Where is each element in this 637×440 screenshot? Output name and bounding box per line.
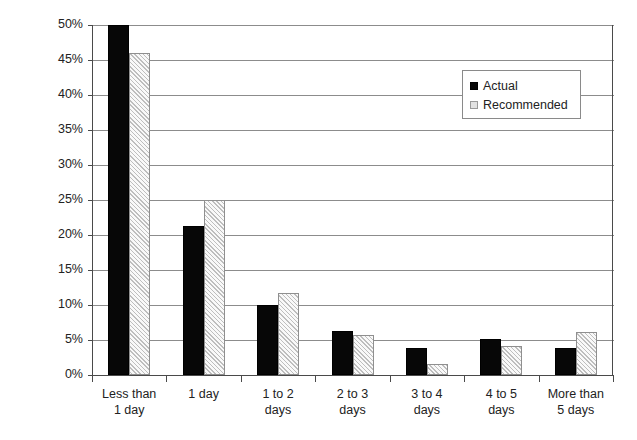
legend-swatch-recommended-icon xyxy=(470,101,478,109)
x-tick-label: More than5 days xyxy=(539,386,613,418)
x-tick-label: 1 to 2days xyxy=(241,386,315,418)
gridline xyxy=(93,130,614,131)
x-tick-label-line: 1 day xyxy=(92,402,166,418)
gridline xyxy=(93,60,614,61)
x-tick-mark xyxy=(92,376,93,382)
gridline xyxy=(93,305,614,306)
y-tick-label: 25% xyxy=(5,192,83,206)
bar-recommended xyxy=(204,200,225,375)
gridline xyxy=(93,200,614,201)
gridline xyxy=(93,270,614,271)
y-tick-label: 0% xyxy=(5,367,83,381)
bar-actual xyxy=(108,25,129,375)
legend-label-recommended: Recommended xyxy=(483,98,568,112)
y-tick-label: 20% xyxy=(5,227,83,241)
gridline xyxy=(93,25,614,26)
x-tick-label-line: days xyxy=(241,402,315,418)
x-tick-mark xyxy=(464,376,465,382)
legend-label-actual: Actual xyxy=(483,79,518,93)
x-tick-label-line: More than xyxy=(539,386,613,402)
legend-item-recommended: Recommended xyxy=(470,95,580,114)
y-tick-mark xyxy=(88,95,93,96)
x-tick-label: 4 to 5days xyxy=(464,386,538,418)
x-tick-label-line: 3 to 4 xyxy=(390,386,464,402)
bar-chart: Percent of respondents 0%5%10%15%20%25%3… xyxy=(0,0,637,440)
chart-legend: Actual Recommended xyxy=(462,70,581,119)
y-tick-label: 10% xyxy=(5,297,83,311)
x-tick-label-line: Less than xyxy=(92,386,166,402)
y-tick-mark xyxy=(88,340,93,341)
bar-recommended xyxy=(129,53,150,375)
x-tick-label-line: days xyxy=(390,402,464,418)
y-tick-mark xyxy=(88,25,93,26)
gridline xyxy=(93,165,614,166)
x-tick-label: 2 to 3days xyxy=(315,386,389,418)
bar-actual xyxy=(257,305,278,375)
x-tick-label: 3 to 4days xyxy=(390,386,464,418)
y-tick-mark xyxy=(88,60,93,61)
y-tick-label: 50% xyxy=(5,17,83,31)
legend-item-actual: Actual xyxy=(470,76,580,95)
x-tick-label: Less than1 day xyxy=(92,386,166,418)
y-tick-mark xyxy=(88,165,93,166)
y-tick-mark xyxy=(88,130,93,131)
bar-recommended xyxy=(501,346,522,375)
y-tick-mark xyxy=(88,270,93,271)
bar-actual xyxy=(183,226,204,375)
x-tick-mark xyxy=(241,376,242,382)
y-tick-label: 5% xyxy=(5,332,83,346)
bar-actual xyxy=(332,331,353,375)
y-tick-label: 35% xyxy=(5,122,83,136)
y-tick-mark xyxy=(88,235,93,236)
y-tick-mark xyxy=(88,200,93,201)
x-tick-label: 1 day xyxy=(166,386,240,402)
bar-recommended xyxy=(353,335,374,375)
bar-actual xyxy=(555,348,576,375)
x-tick-mark xyxy=(166,376,167,382)
x-tick-label-line: 2 to 3 xyxy=(315,386,389,402)
bar-recommended xyxy=(576,332,597,375)
bar-actual xyxy=(480,339,501,375)
y-tick-label: 30% xyxy=(5,157,83,171)
y-tick-label: 40% xyxy=(5,87,83,101)
x-tick-label-line: 5 days xyxy=(539,402,613,418)
y-tick-label: 45% xyxy=(5,52,83,66)
x-tick-label-line: 4 to 5 xyxy=(464,386,538,402)
y-tick-mark xyxy=(88,305,93,306)
x-tick-label-line: 1 day xyxy=(166,386,240,402)
x-tick-label-line: days xyxy=(315,402,389,418)
x-tick-mark xyxy=(539,376,540,382)
bar-recommended xyxy=(427,364,448,375)
x-tick-mark xyxy=(390,376,391,382)
y-tick-label: 15% xyxy=(5,262,83,276)
legend-swatch-actual-icon xyxy=(470,82,478,90)
x-tick-label-line: days xyxy=(464,402,538,418)
x-tick-mark xyxy=(315,376,316,382)
plot-frame-right-edge xyxy=(612,25,613,375)
gridline xyxy=(93,235,614,236)
bar-recommended xyxy=(278,293,299,375)
bar-actual xyxy=(406,348,427,375)
x-tick-label-line: 1 to 2 xyxy=(241,386,315,402)
x-tick-mark xyxy=(613,376,614,382)
